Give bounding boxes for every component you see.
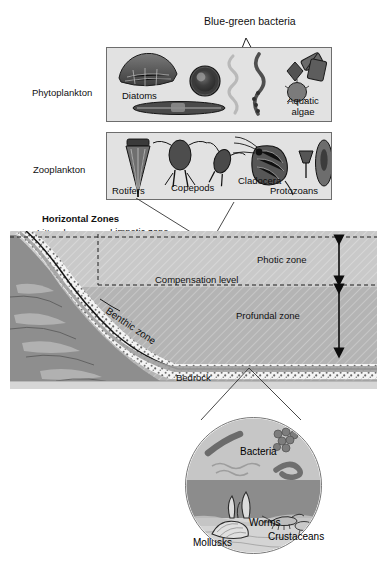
zone-label-compensation: Compensation level: [155, 274, 238, 285]
organism-label-rotifers: Rotifers: [112, 185, 145, 196]
organism-label-copepods: Copepods: [171, 182, 214, 193]
category-label-zooplankton: Zooplankton: [33, 164, 85, 175]
category-label-phytoplankton: Phytoplankton: [32, 87, 92, 98]
inset-label-crustaceans: Crustaceans: [268, 531, 324, 542]
organism-label-protozoans: Protozoans: [270, 185, 318, 196]
lake-to-inset-leader-icon: [195, 368, 315, 423]
inset-label-mollusks: Mollusks: [193, 537, 232, 548]
benthic-leader-icon: [98, 295, 138, 317]
inset-label-bacteria: Bacteria: [240, 446, 277, 457]
diagram-canvas: Blue-green bacteria Phytoplankton: [0, 0, 377, 566]
organism-label-aquatic-algae: Aquatic algae: [279, 96, 327, 117]
aquatic-algae-line1: Aquatic: [287, 95, 319, 106]
lake-cross-section-illustration: [10, 231, 377, 389]
organism-label-diatoms: Diatoms: [122, 90, 157, 101]
horizontal-zones-title: Horizontal Zones: [42, 213, 119, 224]
zone-label-profundal: Profundal zone: [236, 310, 300, 321]
lake-cross-section: Photic zone Compensation level Profundal…: [10, 231, 377, 389]
inset-label-worms: Worms: [249, 517, 280, 528]
phytoplankton-box: Diatoms Aquatic algae: [106, 47, 332, 122]
aquatic-algae-line2: algae: [291, 106, 314, 117]
vertical-zone-arrows-icon: [328, 231, 350, 389]
zooplankton-box: Rotifers Copepods Cladocera Protozoans: [106, 132, 332, 200]
zone-label-photic: Photic zone: [257, 254, 307, 265]
blue-green-bacteria-label: Blue-green bacteria: [204, 16, 296, 27]
